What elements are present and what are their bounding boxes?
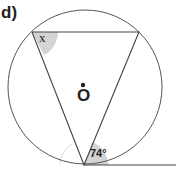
- angle-x-label: x: [39, 30, 46, 46]
- center-label: O: [77, 86, 90, 106]
- angle-74-label: 74°: [90, 147, 107, 159]
- circle-theorem-diagram: [0, 0, 176, 170]
